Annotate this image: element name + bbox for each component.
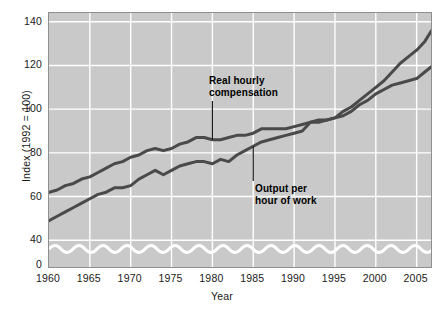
y-tick-label-0: 0	[4, 259, 42, 269]
x-tick-label-1970: 1970	[107, 272, 153, 284]
x-tick-label-1990: 1990	[270, 272, 316, 284]
x-tick-label-1985: 1985	[229, 272, 275, 284]
y-axis-tick-labels: 0406080100120140	[0, 0, 444, 309]
x-tick-label-1980: 1980	[188, 272, 234, 284]
x-axis-title: Year	[0, 290, 444, 302]
x-tick-label-1960: 1960	[25, 272, 71, 284]
x-tick-label-2000: 2000	[352, 272, 398, 284]
chart-figure: Real hourly compensation Output per hour…	[0, 0, 444, 309]
x-tick-label-2005: 2005	[393, 272, 439, 284]
y-tick-label-40: 40	[4, 234, 42, 244]
x-tick-label-1975: 1975	[148, 272, 194, 284]
x-tick-label-1965: 1965	[66, 272, 112, 284]
y-tick-label-140: 140	[4, 16, 42, 26]
y-axis-title: Index (1992 = 100)	[20, 66, 32, 206]
x-tick-label-1995: 1995	[311, 272, 357, 284]
